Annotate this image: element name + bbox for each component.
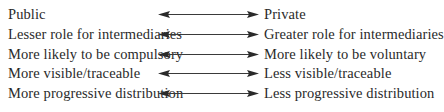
right-label: Less progressive distribution — [264, 84, 434, 103]
right-label: More likely to be voluntary — [264, 45, 426, 64]
spectrum-row-compulsory-voluntary: More likely to be compulsory More likely… — [0, 45, 420, 64]
double-arrow-icon — [158, 68, 259, 79]
double-arrow-icon — [158, 88, 259, 99]
right-label: Less visible/traceable — [264, 64, 391, 83]
left-label: More visible/traceable — [8, 64, 140, 83]
right-label: Greater role for intermediaries — [264, 25, 444, 44]
spectrum-row-intermediaries: Lesser role for intermediaries Greater r… — [0, 25, 420, 44]
left-label: Lesser role for intermediaries — [8, 25, 182, 44]
double-arrow-icon — [158, 49, 259, 60]
right-label: Private — [264, 5, 306, 24]
spectrum-row-visibility: More visible/traceable Less visible/trac… — [0, 64, 420, 83]
double-arrow-icon — [158, 9, 259, 20]
left-label: More likely to be compulsory — [8, 45, 183, 64]
left-label: Public — [8, 5, 46, 24]
spectrum-row-distribution: More progressive distribution Less progr… — [0, 84, 420, 103]
spectrum-row-public-private: Public Private — [0, 5, 420, 24]
left-label: More progressive distribution — [8, 84, 183, 103]
double-arrow-icon — [158, 29, 259, 40]
